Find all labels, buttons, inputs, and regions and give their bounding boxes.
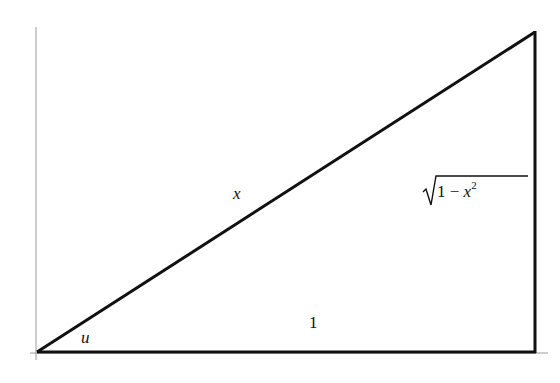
hypotenuse-label: x [233,185,241,202]
radicand-prefix: 1 − [437,182,464,201]
radicand-exponent: 2 [471,179,477,191]
adjacent-label: 1 [309,314,318,331]
radicand: 1 − x2 [437,182,477,202]
radicand-variable: x [464,182,472,201]
angle-label: u [81,329,90,346]
